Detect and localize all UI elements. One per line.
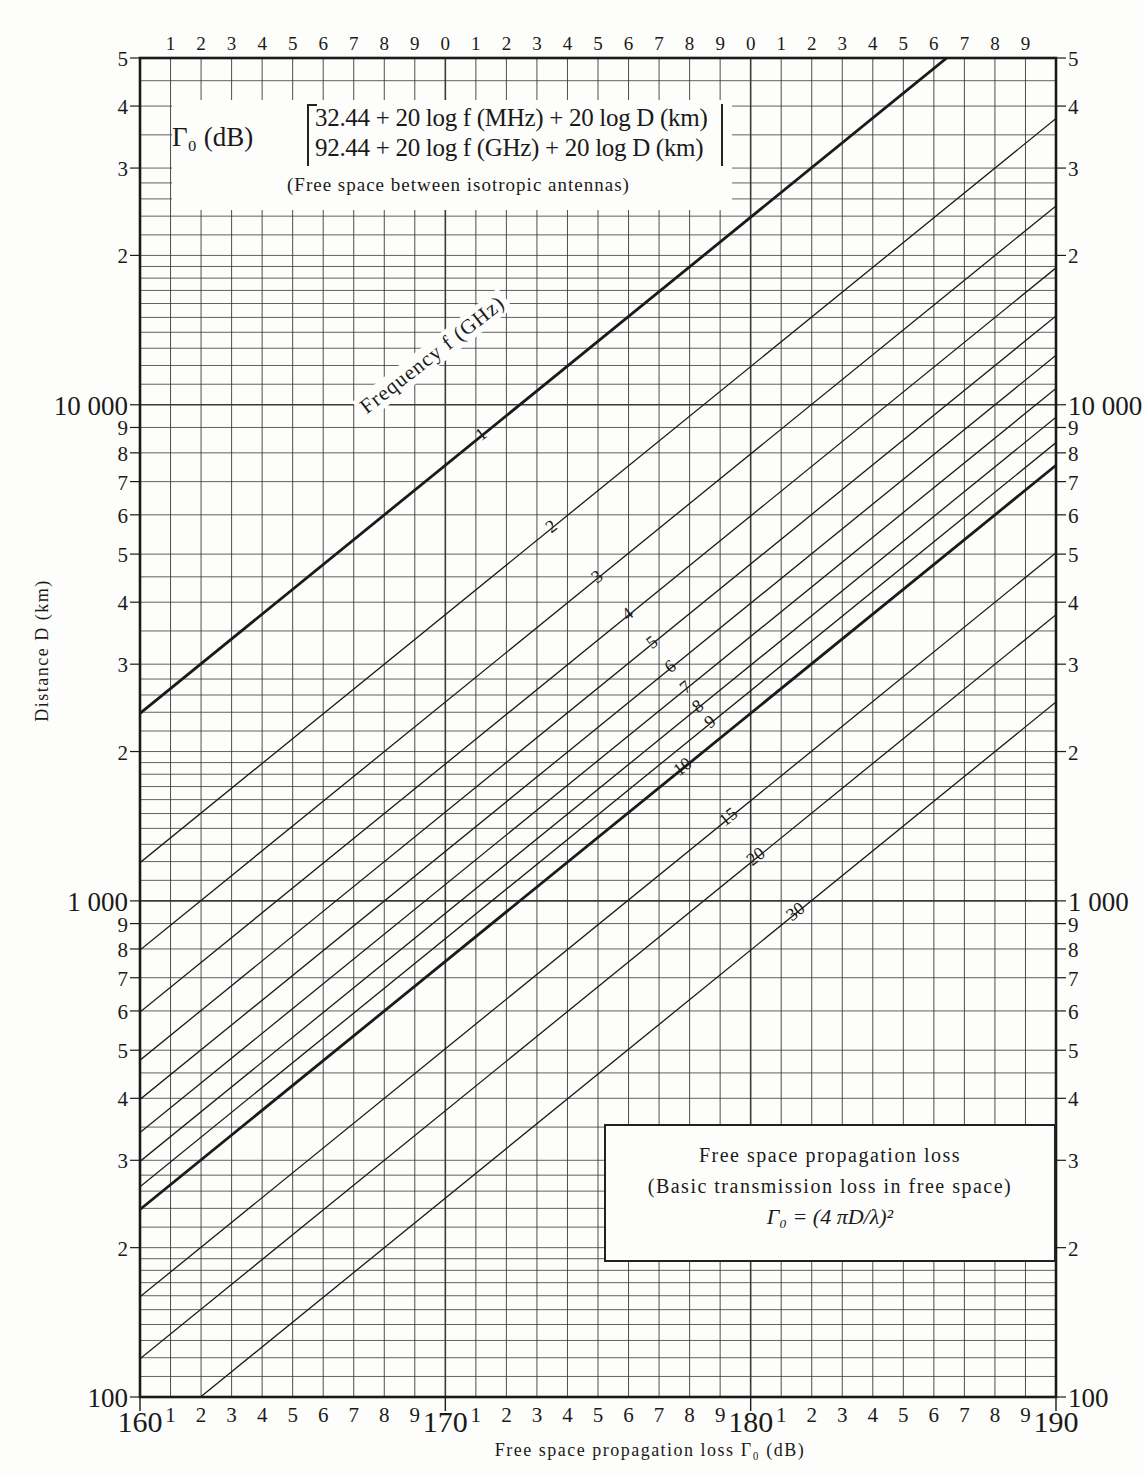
svg-text:2: 2 [196, 33, 206, 54]
svg-text:5: 5 [1068, 1039, 1079, 1063]
svg-text:3: 3 [532, 1403, 543, 1427]
svg-text:2: 2 [1068, 741, 1079, 765]
svg-text:5: 5 [593, 33, 603, 54]
svg-text:4: 4 [257, 1403, 268, 1427]
svg-text:3: 3 [1068, 1149, 1079, 1173]
svg-text:5: 5 [287, 1403, 298, 1427]
svg-text:9: 9 [715, 33, 725, 54]
svg-text:2: 2 [806, 1403, 817, 1427]
formula-ghz: 92.44 + 20 log f (GHz) + 20 log D (km) [315, 134, 703, 162]
svg-text:5: 5 [593, 1403, 604, 1427]
svg-text:4: 4 [563, 33, 573, 54]
svg-text:6: 6 [318, 1403, 329, 1427]
svg-text:6: 6 [118, 504, 129, 528]
svg-text:8: 8 [990, 1403, 1001, 1427]
svg-text:4: 4 [118, 591, 129, 615]
svg-text:3: 3 [1068, 653, 1079, 677]
svg-text:1: 1 [165, 1403, 176, 1427]
svg-text:5: 5 [1068, 47, 1079, 71]
x-axis-label: Free space propagation loss Γ₀ (dB) [300, 1440, 1000, 1461]
formula-box: Γ₀ (dB) 32.44 + 20 log f (MHz) + 20 log … [172, 100, 732, 210]
svg-text:6: 6 [118, 1000, 129, 1024]
svg-text:1: 1 [471, 33, 481, 54]
svg-text:5: 5 [118, 543, 129, 567]
svg-text:9: 9 [1068, 913, 1079, 937]
svg-text:0: 0 [441, 33, 451, 54]
svg-text:3: 3 [227, 33, 237, 54]
svg-text:3: 3 [532, 33, 542, 54]
formula-note: (Free space between isotropic antennas) [287, 174, 630, 196]
svg-text:8: 8 [685, 33, 695, 54]
svg-text:2: 2 [118, 741, 129, 765]
svg-text:8: 8 [1068, 938, 1079, 962]
svg-text:8: 8 [990, 33, 1000, 54]
svg-text:7: 7 [959, 1403, 970, 1427]
svg-text:1: 1 [166, 33, 176, 54]
svg-text:2: 2 [196, 1403, 207, 1427]
svg-text:2: 2 [502, 33, 512, 54]
svg-text:5: 5 [288, 33, 298, 54]
svg-text:6: 6 [318, 33, 328, 54]
svg-text:2: 2 [807, 33, 817, 54]
svg-text:2: 2 [501, 1403, 512, 1427]
svg-text:3: 3 [118, 653, 129, 677]
svg-text:5: 5 [1068, 543, 1079, 567]
svg-text:8: 8 [118, 938, 129, 962]
chart-title: Free space propagation loss [606, 1144, 1054, 1167]
svg-text:3: 3 [226, 1403, 237, 1427]
svg-text:3: 3 [118, 1149, 129, 1173]
svg-text:4: 4 [868, 1403, 879, 1427]
svg-text:8: 8 [1068, 442, 1079, 466]
svg-text:8: 8 [684, 1403, 695, 1427]
svg-text:2: 2 [118, 244, 129, 268]
svg-text:9: 9 [1021, 33, 1031, 54]
svg-text:7: 7 [349, 33, 359, 54]
svg-text:4: 4 [118, 95, 129, 119]
svg-text:9: 9 [1020, 1403, 1031, 1427]
svg-text:9: 9 [118, 416, 129, 440]
svg-text:3: 3 [118, 157, 129, 181]
svg-text:5: 5 [118, 1039, 129, 1063]
svg-text:8: 8 [118, 442, 129, 466]
formula-mhz: 32.44 + 20 log f (MHz) + 20 log D (km) [315, 104, 707, 132]
svg-text:6: 6 [624, 33, 634, 54]
svg-text:6: 6 [1068, 504, 1079, 528]
svg-text:1: 1 [776, 33, 786, 54]
svg-text:8: 8 [380, 33, 390, 54]
svg-text:4: 4 [868, 33, 878, 54]
svg-text:9: 9 [410, 33, 420, 54]
svg-text:4: 4 [257, 33, 267, 54]
svg-text:4: 4 [1068, 95, 1079, 119]
chart-formula: Γ₀ = (4 πD/λ)² [606, 1204, 1054, 1230]
gamma-db-label: Γ₀ (dB) [172, 122, 253, 153]
svg-text:9: 9 [1068, 416, 1079, 440]
svg-text:4: 4 [1068, 591, 1079, 615]
svg-text:8: 8 [379, 1403, 390, 1427]
svg-text:3: 3 [837, 1403, 848, 1427]
svg-text:7: 7 [1068, 967, 1079, 991]
svg-text:4: 4 [562, 1403, 573, 1427]
svg-text:10 000: 10 000 [1068, 391, 1142, 421]
svg-text:4: 4 [1068, 1087, 1079, 1111]
svg-text:7: 7 [118, 471, 129, 495]
svg-text:0: 0 [746, 33, 756, 54]
svg-text:7: 7 [654, 33, 664, 54]
svg-text:3: 3 [838, 33, 848, 54]
svg-text:100: 100 [1068, 1383, 1109, 1413]
svg-text:9: 9 [715, 1403, 726, 1427]
chart-title-box: Free space propagation loss (Basic trans… [604, 1124, 1056, 1262]
svg-text:5: 5 [898, 1403, 909, 1427]
svg-text:7: 7 [960, 33, 970, 54]
svg-text:100: 100 [88, 1383, 129, 1413]
svg-text:6: 6 [1068, 1000, 1079, 1024]
svg-text:9: 9 [118, 913, 129, 937]
svg-text:1: 1 [776, 1403, 787, 1427]
svg-text:2: 2 [118, 1237, 129, 1261]
svg-text:3: 3 [1068, 157, 1079, 181]
svg-text:2: 2 [1068, 1237, 1079, 1261]
svg-text:6: 6 [929, 1403, 940, 1427]
svg-text:9: 9 [410, 1403, 421, 1427]
svg-text:1: 1 [471, 1403, 482, 1427]
svg-text:7: 7 [118, 967, 129, 991]
svg-text:7: 7 [654, 1403, 665, 1427]
